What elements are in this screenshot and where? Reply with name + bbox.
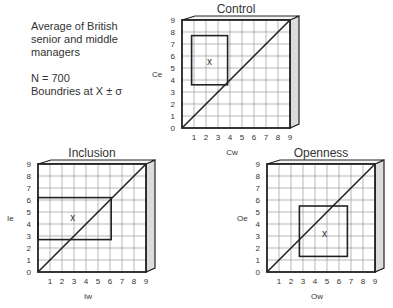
y-tick-label: 5	[256, 208, 261, 217]
x-tick-label: 4	[313, 277, 318, 286]
x-tick-label: 3	[72, 277, 77, 286]
y-tick-label: 9	[27, 160, 32, 169]
y-tick-label: 7	[256, 184, 261, 193]
x-tick-label: 1	[48, 277, 53, 286]
x-tick-label: 2	[60, 277, 65, 286]
chart-inclusion: xInclusion0123456789123456789IwIe	[7, 146, 155, 301]
y-tick-label: 4	[27, 220, 32, 229]
chart-title: Control	[217, 2, 256, 16]
y-tick-label: 6	[171, 52, 176, 61]
x-tick-label: 5	[96, 277, 101, 286]
y-tick-label: 1	[256, 256, 261, 265]
y-tick-label: 8	[256, 172, 261, 181]
x-axis-label: Iw	[84, 292, 92, 301]
mean-marker: x	[322, 228, 327, 239]
x-tick-label: 7	[120, 277, 125, 286]
cube-side	[375, 160, 384, 272]
y-tick-label: 7	[171, 40, 176, 49]
y-tick-label: 2	[256, 244, 261, 253]
x-tick-label: 8	[361, 277, 366, 286]
x-tick-label: 4	[84, 277, 89, 286]
x-axis-label: Ow	[311, 292, 323, 301]
cube-side	[290, 16, 299, 128]
x-tick-label: 7	[349, 277, 354, 286]
y-axis-label: Ie	[7, 214, 14, 223]
y-tick-label: 3	[27, 232, 32, 241]
x-tick-label: 6	[337, 277, 342, 286]
chart-control: xControl0123456789123456789CwCe	[152, 2, 299, 157]
y-tick-label: 5	[171, 64, 176, 73]
x-tick-label: 6	[108, 277, 113, 286]
y-tick-label: 9	[256, 160, 261, 169]
y-tick-label: 0	[27, 268, 32, 277]
y-tick-label: 4	[256, 220, 261, 229]
y-tick-label: 3	[171, 88, 176, 97]
y-tick-label: 6	[256, 196, 261, 205]
x-tick-label: 3	[301, 277, 306, 286]
y-tick-label: 2	[171, 100, 176, 109]
y-tick-label: 3	[256, 232, 261, 241]
y-tick-label: 8	[27, 172, 32, 181]
x-tick-label: 2	[289, 277, 294, 286]
y-tick-label: 4	[171, 76, 176, 85]
y-tick-label: 0	[256, 268, 261, 277]
chart-openness: xOpenness0123456789123456789OwOe	[237, 146, 384, 301]
x-tick-label: 1	[192, 133, 197, 142]
mean-marker: x	[70, 212, 75, 223]
x-tick-label: 8	[276, 133, 281, 142]
x-tick-label: 9	[144, 277, 149, 286]
y-tick-label: 8	[171, 28, 176, 37]
y-axis-label: Oe	[237, 214, 248, 223]
y-tick-label: 9	[171, 16, 176, 25]
x-tick-label: 4	[228, 133, 233, 142]
cube-side	[146, 160, 155, 272]
x-tick-label: 5	[325, 277, 330, 286]
x-tick-label: 8	[132, 277, 137, 286]
y-axis-label: Ce	[152, 70, 163, 79]
y-tick-label: 7	[27, 184, 32, 193]
y-tick-label: 5	[27, 208, 32, 217]
x-tick-label: 6	[252, 133, 257, 142]
y-tick-label: 1	[171, 112, 176, 121]
x-tick-label: 7	[264, 133, 269, 142]
charts-canvas: xControl0123456789123456789CwCexInclusio…	[0, 0, 393, 308]
y-tick-label: 1	[27, 256, 32, 265]
x-tick-label: 1	[277, 277, 282, 286]
mean-marker: x	[207, 56, 212, 67]
y-tick-label: 2	[27, 244, 32, 253]
x-tick-label: 9	[288, 133, 293, 142]
chart-title: Inclusion	[68, 146, 115, 160]
x-tick-label: 5	[240, 133, 245, 142]
y-tick-label: 0	[171, 124, 176, 133]
x-axis-label: Cw	[226, 148, 238, 157]
x-tick-label: 9	[373, 277, 378, 286]
chart-title: Openness	[294, 146, 349, 160]
x-tick-label: 2	[204, 133, 209, 142]
y-tick-label: 6	[27, 196, 32, 205]
x-tick-label: 3	[216, 133, 221, 142]
